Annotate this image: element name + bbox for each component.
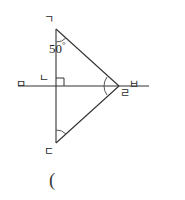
vertex-label-center-left: ㄴ (39, 73, 49, 84)
angle-arc-bottom-icon (56, 130, 66, 134)
degree-symbol-icon: ° (62, 40, 66, 50)
angle-measure-label: 50° (49, 41, 66, 55)
angle-measure-value: 50 (49, 41, 62, 56)
segment-top-to-right (56, 29, 119, 86)
caption-text: ( (49, 170, 55, 189)
line-endpoint-label-right: ㅂ (129, 79, 139, 90)
vertex-label-top: ㄱ (44, 14, 54, 25)
right-angle-marker-icon (56, 78, 64, 86)
geometry-figure: ㄱ ㄴ ㄷ ㄹ ㅁ ㅂ 50° ( (0, 0, 185, 200)
geometry-canvas (0, 0, 185, 200)
vertex-label-bottom: ㄷ (44, 146, 54, 157)
segment-bottom-to-right (56, 86, 119, 143)
line-endpoint-label-left: ㅁ (16, 79, 26, 90)
